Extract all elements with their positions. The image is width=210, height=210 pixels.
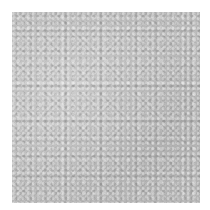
grey-texture-image (12, 12, 200, 203)
